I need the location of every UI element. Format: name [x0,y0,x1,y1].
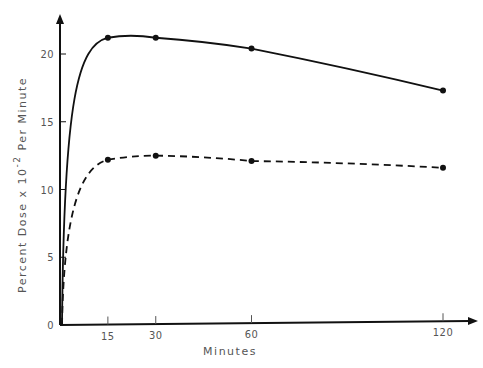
y-axis-label: Percent Dose x 10-2 Per Minute [12,77,29,293]
x-axis-ticks: 153060120 [101,313,453,342]
y-label-main: Percent Dose x 10 [16,168,29,294]
x-tick-label: 120 [433,326,453,339]
data-point [440,165,446,171]
x-tick-label: 30 [149,329,163,342]
y-tick-label: 15 [40,116,54,129]
x-tick-label: 15 [101,330,115,343]
dashed-curve [62,156,443,325]
x-axis-label: Minutes [203,345,257,358]
x-tick-label: 60 [245,328,259,341]
data-series [62,35,446,325]
y-label-superscript: -2 [12,156,22,168]
y-tick-label: 0 [47,319,54,332]
data-point [105,157,111,163]
axes [56,14,478,325]
data-point [440,88,446,94]
svg-text:Percent Dose x 10-2 Per Minute: Percent Dose x 10-2 Per Minute [12,77,29,293]
x-axis-arrow-icon [468,317,478,325]
y-axis-arrow-icon [56,14,64,24]
data-point [249,158,255,164]
y-tick-label: 20 [40,48,54,61]
solid-curve [62,36,443,325]
y-label-suffix: Per Minute [16,77,29,156]
data-point [153,153,159,159]
data-point [153,35,159,41]
data-point [249,46,255,52]
line-chart: 05101520 153060120 Minutes Percent Dose … [0,0,483,368]
y-tick-label: 10 [40,184,54,197]
y-tick-label: 5 [47,251,54,264]
data-point [105,35,111,41]
